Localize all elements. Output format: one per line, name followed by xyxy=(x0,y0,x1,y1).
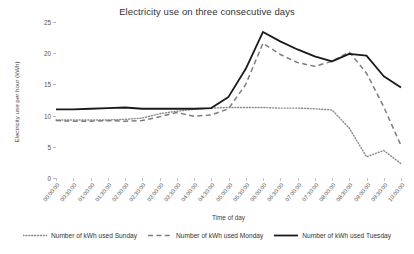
y-axis-tick-mark xyxy=(53,84,56,85)
legend-label: Number of kWh used Monday xyxy=(176,232,263,239)
x-axis-tick-label: 02:00:00 xyxy=(111,182,130,203)
x-axis-tick-mark xyxy=(56,178,57,181)
y-axis-title: Electricity use per hour (kWh) xyxy=(13,61,20,142)
x-axis-tick-mark xyxy=(349,178,350,181)
x-axis-tick-label: 05:30:00 xyxy=(232,182,251,203)
y-axis-tick-label: 10 xyxy=(44,112,51,119)
x-axis-tick-label: 04:00:00 xyxy=(180,182,199,203)
x-axis-tick-mark xyxy=(108,178,109,181)
x-axis-tick-label: 08:30:00 xyxy=(335,182,354,203)
x-axis-tick-mark xyxy=(280,178,281,181)
x-axis-tick-mark xyxy=(194,178,195,181)
y-axis-tick-mark xyxy=(53,116,56,117)
series-line xyxy=(56,43,401,145)
y-axis-tick-label: 20 xyxy=(44,50,51,57)
chart-container: Electricity use on three consecutive day… xyxy=(0,0,414,254)
x-axis-tick-label: 02:30:00 xyxy=(128,182,147,203)
x-axis-tick-label: 06:00:00 xyxy=(249,182,268,203)
series-line xyxy=(56,32,401,109)
y-axis-tick-mark xyxy=(53,53,56,54)
x-axis-tick-mark xyxy=(246,178,247,181)
x-axis-tick-label: 00:00:00 xyxy=(42,182,61,203)
x-axis-tick-label: 07:30:00 xyxy=(301,182,320,203)
x-axis-tick-label: 09:00:00 xyxy=(352,182,371,203)
x-axis-tick-label: 08:00:00 xyxy=(318,182,337,203)
series-line xyxy=(56,107,401,163)
x-axis-tick-label: 06:30:00 xyxy=(266,182,285,203)
plot-area: 051015202500:00:0000:30:0001:00:0001:30:… xyxy=(56,22,401,178)
y-axis-tick-mark xyxy=(53,22,56,23)
legend-item[interactable]: Number of kWh used Sunday xyxy=(23,232,137,239)
y-axis-tick-label: 25 xyxy=(44,19,51,26)
x-axis-tick-mark xyxy=(263,178,264,181)
x-axis-tick-label: 01:00:00 xyxy=(76,182,95,203)
x-axis-tick-mark xyxy=(142,178,143,181)
x-axis-tick-label: 07:00:00 xyxy=(283,182,302,203)
legend-swatch-dotted xyxy=(23,232,47,239)
legend-item[interactable]: Number of kWh used Monday xyxy=(148,232,263,239)
x-axis-tick-mark xyxy=(384,178,385,181)
y-axis-tick-label: 5 xyxy=(47,143,51,150)
x-axis-tick-label: 01:30:00 xyxy=(94,182,113,203)
x-axis-tick-label: 04:30:00 xyxy=(197,182,216,203)
x-axis-tick-label: 03:30:00 xyxy=(163,182,182,203)
x-axis-tick-label: 10:00:00 xyxy=(387,182,406,203)
x-axis-tick-label: 00:30:00 xyxy=(59,182,78,203)
x-axis-tick-mark xyxy=(73,178,74,181)
x-axis-title: Time of day xyxy=(56,214,401,221)
x-axis-tick-mark xyxy=(160,178,161,181)
y-axis-tick-mark xyxy=(53,147,56,148)
legend-label: Number of kWh used Sunday xyxy=(51,232,137,239)
x-axis-tick-mark xyxy=(315,178,316,181)
x-axis-tick-mark xyxy=(332,178,333,181)
chart-legend: Number of kWh used SundayNumber of kWh u… xyxy=(0,232,414,239)
x-axis-tick-label: 03:00:00 xyxy=(145,182,164,203)
x-axis-tick-label: 05:00:00 xyxy=(214,182,233,203)
x-axis-tick-mark xyxy=(367,178,368,181)
legend-item[interactable]: Number of kWh used Tuesday xyxy=(274,232,391,239)
y-axis-tick-label: 15 xyxy=(44,81,51,88)
x-axis-tick-mark xyxy=(298,178,299,181)
x-axis-tick-mark xyxy=(401,178,402,181)
legend-swatch-solid xyxy=(274,232,298,239)
chart-title: Electricity use on three consecutive day… xyxy=(0,6,414,17)
legend-swatch-dashed xyxy=(148,232,172,239)
x-axis-tick-mark xyxy=(211,178,212,181)
series-lines xyxy=(56,22,401,178)
x-axis-tick-mark xyxy=(91,178,92,181)
legend-label: Number of kWh used Tuesday xyxy=(302,232,391,239)
y-axis-tick-label: 0 xyxy=(47,175,51,182)
x-axis-tick-mark xyxy=(125,178,126,181)
x-axis-tick-label: 09:30:00 xyxy=(370,182,389,203)
y-axis-title-wrap: Electricity use per hour (kWh) xyxy=(10,24,22,180)
x-axis-tick-mark xyxy=(177,178,178,181)
x-axis-tick-mark xyxy=(229,178,230,181)
